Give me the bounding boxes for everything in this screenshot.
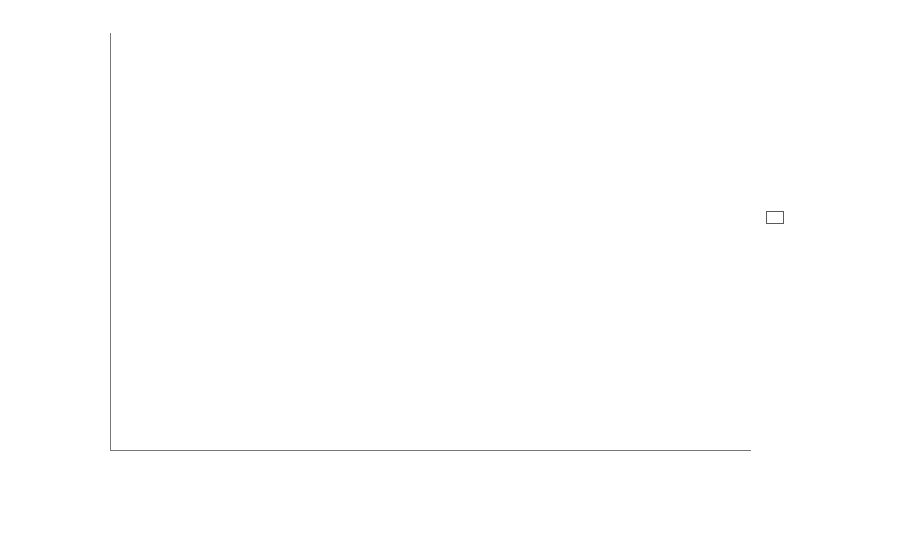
stacked-bar-chart xyxy=(0,0,900,534)
y-axis-line xyxy=(110,33,111,451)
x-axis-line xyxy=(110,450,751,451)
plot-area xyxy=(110,33,750,450)
legend xyxy=(766,211,784,224)
